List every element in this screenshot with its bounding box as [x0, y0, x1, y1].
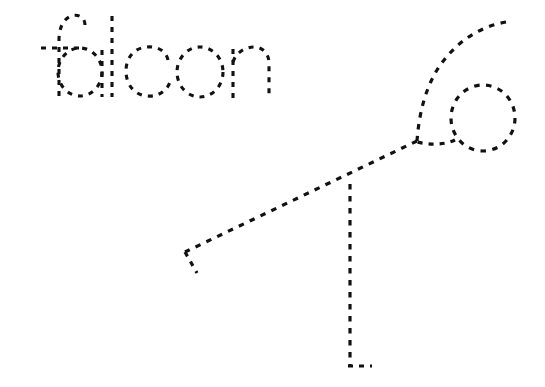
falcon-beak [417, 140, 455, 144]
letter-c-bowl [126, 47, 170, 96]
letter-a-bowl [58, 48, 102, 96]
letter-n-arch [233, 47, 269, 98]
falcon-tail-tip [185, 252, 197, 273]
falcon-body-diagonal [185, 141, 417, 252]
falcon-head-loop [451, 85, 515, 151]
letter-a[interactable] [58, 48, 102, 97]
letter-c[interactable] [126, 47, 170, 96]
falcon-back-curve [417, 22, 506, 141]
letter-o[interactable] [177, 47, 223, 97]
tracing-worksheet: falcon falcon [0, 0, 545, 387]
letter-o-bowl [177, 47, 223, 97]
letter-n[interactable] [233, 47, 269, 98]
worksheet-canvas [0, 0, 545, 387]
traceable-word-falcon[interactable] [41, 15, 269, 98]
